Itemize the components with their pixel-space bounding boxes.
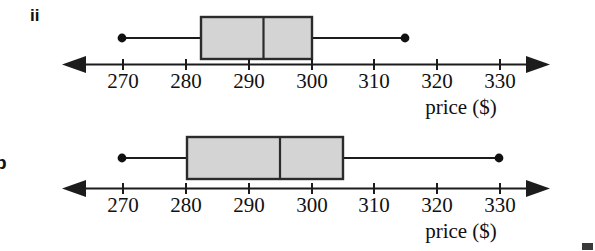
whisker-min-dot — [118, 34, 127, 43]
axis-tick-label: 310 — [358, 193, 390, 217]
x-axis-title: price ($) — [425, 219, 497, 243]
box-iqr — [187, 137, 343, 179]
boxplot-panel-ii: ii — [0, 0, 595, 125]
box-iqr — [201, 17, 312, 59]
axis-arrow-right-icon — [526, 180, 550, 197]
axis-tick-label: 330 — [484, 69, 516, 93]
boxplot-series-ii — [118, 17, 410, 59]
boxplot-panel-b: b — [0, 110, 595, 251]
boxplot-chart-b: 270 280 290 300 310 320 330 price ($) — [0, 110, 595, 251]
x-axis-b: 270 280 290 300 310 320 330 price ($) — [62, 180, 550, 243]
axis-tick-label: 270 — [107, 193, 139, 217]
axis-arrow-left-icon — [62, 56, 86, 73]
whisker-max-dot — [495, 154, 504, 163]
axis-tick-label: 290 — [233, 69, 265, 93]
boxplot-series-b — [118, 137, 504, 179]
axis-arrow-right-icon — [526, 56, 550, 73]
axis-tick-label: 330 — [484, 193, 516, 217]
whisker-max-dot — [401, 34, 410, 43]
axis-tick-label: 310 — [358, 69, 390, 93]
axis-tick-label: 320 — [421, 193, 453, 217]
axis-tick-label: 290 — [233, 193, 265, 217]
axis-tick-label: 320 — [421, 69, 453, 93]
page-corner-mark — [582, 243, 593, 250]
whisker-min-dot — [118, 154, 127, 163]
boxplot-svg-b: 270 280 290 300 310 320 330 price ($) — [0, 110, 595, 251]
boxplot-svg-ii: 270 280 290 300 310 320 330 price ($) — [0, 0, 595, 125]
axis-tick-label: 300 — [296, 69, 328, 93]
boxplot-chart-ii: 270 280 290 300 310 320 330 price ($) — [0, 0, 595, 125]
axis-tick-label: 280 — [170, 193, 202, 217]
axis-arrow-left-icon — [62, 180, 86, 197]
axis-tick-label: 300 — [296, 193, 328, 217]
axis-tick-label: 270 — [107, 69, 139, 93]
axis-tick-label: 280 — [170, 69, 202, 93]
